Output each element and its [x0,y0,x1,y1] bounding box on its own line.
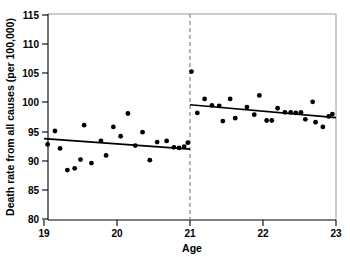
data-point [45,142,50,147]
x-axis-tick-labels: 19 20 21 22 23 [38,228,342,239]
data-point [210,103,215,108]
data-point [252,112,257,117]
y-tick-label-80: 80 [28,214,40,225]
data-point [104,153,109,158]
data-point [269,118,274,123]
data-point [320,125,325,130]
y-axis-ticks [42,15,48,219]
y-tick-label-115: 115 [23,10,40,21]
data-point [185,140,190,145]
data-point [58,146,63,151]
x-tick-label-22: 22 [257,228,269,239]
y-axis: 115 110 105 100 95 90 85 80 Death rate f… [4,10,48,225]
data-point [118,134,123,139]
x-axis-ticks [44,220,336,226]
data-point [283,110,288,115]
data-point [126,111,131,116]
y-tick-label-110: 110 [23,39,40,50]
x-tick-label-21: 21 [184,228,196,239]
data-point [189,69,194,74]
data-point [303,117,308,122]
data-point [195,111,200,116]
data-point [310,99,315,104]
data-point [299,110,304,115]
data-point [293,111,298,116]
data-point [155,140,160,145]
x-tick-label-23: 23 [330,228,342,239]
data-point [288,110,293,115]
data-point [217,104,222,109]
chart-figure: 115 110 105 100 95 90 85 80 Death rate f… [0,0,350,257]
y-tick-label-95: 95 [28,127,40,138]
y-axis-title: Death rate from all causes (per 100,000) [4,18,16,216]
data-point [82,123,87,128]
y-tick-label-90: 90 [28,156,40,167]
data-point [53,129,58,134]
data-point [65,168,70,173]
x-tick-label-19: 19 [38,228,50,239]
x-axis: 19 20 21 22 23 Age [38,220,342,254]
data-point [164,138,169,143]
data-point [245,105,250,110]
data-point [233,116,238,121]
data-point [257,93,262,98]
data-point [177,145,182,150]
x-axis-title: Age [182,242,202,254]
data-point [140,130,145,135]
data-point [111,125,116,130]
data-point [228,97,233,102]
data-point [202,97,207,102]
data-point [264,118,269,123]
plot-frame [48,14,336,220]
x-tick-label-20: 20 [111,228,123,239]
data-point [330,112,335,117]
y-tick-label-85: 85 [28,185,40,196]
data-point [78,157,83,162]
y-axis-tick-labels: 115 110 105 100 95 90 85 80 [22,10,39,225]
data-point [172,145,177,150]
data-point [89,161,94,166]
data-point [275,106,280,111]
y-tick-label-100: 100 [22,97,39,108]
data-point [147,158,152,163]
data-point [72,166,77,171]
scatter-plot: 115 110 105 100 95 90 85 80 Death rate f… [0,0,350,257]
data-point [99,138,104,143]
data-point [133,143,138,148]
data-point [182,144,187,149]
data-point [220,119,225,124]
data-point [313,120,318,125]
y-tick-label-105: 105 [22,68,39,79]
